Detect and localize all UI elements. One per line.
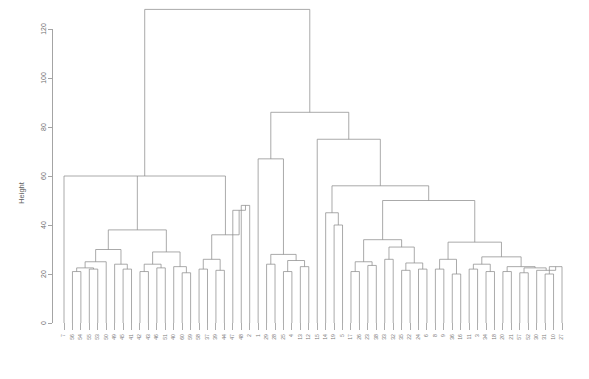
leaf-label: 40 bbox=[170, 334, 176, 340]
dendrogram-branch bbox=[549, 267, 562, 323]
leaf-label: 31 bbox=[541, 334, 547, 340]
leaf-label: 35 bbox=[398, 334, 404, 340]
leaf-label: 58 bbox=[195, 334, 201, 340]
dendrogram-branch bbox=[174, 267, 187, 323]
leaf-label: 21 bbox=[508, 334, 514, 340]
y-tick-label: 120 bbox=[40, 23, 47, 35]
dendrogram-branch bbox=[108, 230, 166, 252]
dendrogram-branch bbox=[157, 268, 165, 323]
leaf-label: 39 bbox=[212, 334, 218, 340]
dendrogram-links bbox=[64, 9, 562, 323]
leaf-label: 5 bbox=[339, 334, 345, 337]
dendrogram-branch bbox=[199, 269, 207, 323]
leaf-label: 52 bbox=[525, 334, 531, 340]
dendrogram-branch bbox=[469, 269, 477, 323]
leaf-label: 1 bbox=[255, 334, 261, 337]
dendrogram-branch bbox=[383, 201, 475, 243]
leaf-label: 53 bbox=[94, 334, 100, 340]
dendrogram-branch bbox=[216, 270, 224, 323]
dendrogram-branch bbox=[435, 269, 443, 323]
dendrogram-branch bbox=[545, 274, 553, 323]
leaf-label: 60 bbox=[179, 334, 185, 340]
dendrogram-branch bbox=[364, 240, 402, 262]
leaf-label: 19 bbox=[330, 334, 336, 340]
dendrogram-branch bbox=[271, 254, 296, 264]
y-tick-label: 0 bbox=[40, 321, 47, 325]
leaf-label: 44 bbox=[221, 334, 227, 340]
leaf-label: 25 bbox=[280, 334, 286, 340]
leaf-label: 59 bbox=[187, 334, 193, 340]
dendrogram-branch bbox=[440, 259, 457, 274]
leaf-label: 26 bbox=[356, 334, 362, 340]
leaf-label: 15 bbox=[314, 334, 320, 340]
dendrogram-branch bbox=[482, 257, 521, 267]
leaf-label: 24 bbox=[415, 334, 421, 340]
dendrogram-branch bbox=[326, 213, 339, 323]
leaf-label: 16 bbox=[457, 334, 463, 340]
y-tick-label: 20 bbox=[40, 270, 47, 278]
leaf-label: 50 bbox=[103, 334, 109, 340]
leaf-label: 9 bbox=[440, 334, 446, 337]
leaf-labels: 7565455535049454142434651406059583739444… bbox=[60, 334, 564, 340]
leaf-label: 20 bbox=[499, 334, 505, 340]
leaf-label: 11 bbox=[466, 334, 472, 339]
leaf-label: 38 bbox=[373, 334, 379, 340]
leaf-label: 41 bbox=[128, 334, 134, 340]
dendrogram-branch bbox=[283, 272, 291, 323]
leaf-label: 47 bbox=[229, 334, 235, 340]
dendrogram-branch bbox=[351, 272, 359, 323]
leaf-label: 49 bbox=[111, 334, 117, 340]
leaf-label: 36 bbox=[449, 334, 455, 340]
leaf-label: 37 bbox=[204, 334, 210, 340]
leaf-label: 22 bbox=[406, 334, 412, 340]
dendrogram-branch bbox=[368, 265, 376, 323]
dendrogram-branch bbox=[419, 269, 427, 323]
y-axis: 020406080100120 bbox=[40, 23, 52, 325]
leaf-label: 57 bbox=[516, 334, 522, 340]
dendrogram-branch bbox=[241, 205, 249, 323]
leaf-label: 43 bbox=[145, 334, 151, 340]
leaf-label: 34 bbox=[482, 334, 488, 340]
axis-title-text: Height bbox=[17, 181, 26, 204]
leaf-label: 45 bbox=[119, 334, 125, 340]
dendrogram-branch bbox=[77, 268, 94, 272]
dendrogram-branch bbox=[385, 259, 393, 323]
leaf-label: 28 bbox=[271, 334, 277, 340]
leaf-label: 27 bbox=[558, 334, 564, 340]
leaf-label: 8 bbox=[432, 334, 438, 337]
dendrogram-branch bbox=[334, 225, 342, 323]
leaf-label: 30 bbox=[533, 334, 539, 340]
leaf-label: 4 bbox=[288, 334, 294, 337]
leaf-label: 32 bbox=[390, 334, 396, 340]
dendrogram-branch bbox=[72, 272, 80, 323]
dendrogram-branch bbox=[203, 259, 220, 270]
leaf-label: 56 bbox=[69, 334, 75, 340]
leaf-label: 7 bbox=[60, 334, 66, 337]
dendrogram-branch bbox=[520, 273, 528, 323]
y-tick-label: 80 bbox=[40, 123, 47, 131]
dendrogram-branch bbox=[452, 274, 460, 323]
dendrogram-branch bbox=[288, 261, 305, 272]
dendrogram-branch bbox=[258, 159, 283, 323]
dendrogram-plot: 020406080100120 756545553504945414243465… bbox=[0, 0, 589, 379]
dendrogram-branch bbox=[89, 269, 97, 323]
leaf-label: 12 bbox=[305, 334, 311, 340]
dendrogram-branch bbox=[300, 267, 308, 323]
dendrogram-branch bbox=[115, 264, 128, 323]
leaf-label: 29 bbox=[263, 334, 269, 340]
dendrogram-branch bbox=[473, 264, 490, 271]
dendrogram-branch bbox=[267, 264, 275, 323]
leaf-label: 42 bbox=[136, 334, 142, 340]
y-tick-label: 100 bbox=[40, 72, 47, 84]
dendrogram-branch bbox=[145, 9, 310, 176]
leaf-label: 46 bbox=[153, 334, 159, 340]
leaf-label: 13 bbox=[297, 334, 303, 340]
dendrogram-branch bbox=[317, 139, 380, 323]
leaf-tick-marks bbox=[64, 323, 562, 330]
dendrogram-branch bbox=[402, 270, 410, 323]
dendrogram-branch bbox=[182, 273, 190, 323]
leaf-label: 18 bbox=[491, 334, 497, 340]
dendrogram-branch bbox=[271, 112, 349, 159]
y-tick-label: 40 bbox=[40, 221, 47, 229]
leaf-label: 33 bbox=[381, 334, 387, 340]
